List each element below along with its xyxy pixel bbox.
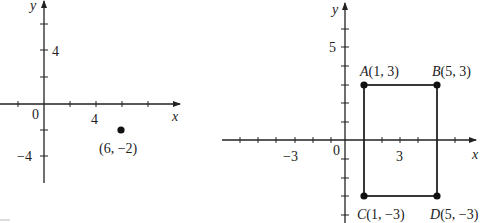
point-C-label: C(1, −3)	[357, 207, 405, 223]
left-x-tick-label-4: 4	[91, 112, 98, 127]
point-D	[433, 192, 440, 199]
right-y-tick-label-5: 5	[329, 40, 336, 55]
right-origin-label: 0	[333, 143, 340, 158]
point-B	[433, 81, 440, 88]
left-y-tick-label-4: 4	[52, 44, 59, 59]
point-B-label: B(5, 3)	[432, 64, 471, 80]
right-graph: y x 0 −3 3 5 A(1, 3) B(5, 3) C(1, −3) D(…	[222, 2, 479, 223]
right-x-axis-label: x	[471, 147, 479, 162]
left-origin-label: 0	[32, 107, 39, 122]
right-x-tick-label-3: 3	[396, 149, 403, 164]
point-D-label: D(5, −3)	[429, 207, 479, 223]
point-A	[360, 81, 367, 88]
left-x-axis-label: x	[171, 109, 179, 124]
left-y-axis-label: y	[28, 0, 37, 13]
right-y-axis-label: y	[330, 2, 339, 17]
figure-canvas: y x 0 4 4 −4 (6, −2)	[0, 0, 482, 223]
left-y-tick-label-neg4: −4	[17, 149, 32, 164]
left-graph: y x 0 4 4 −4 (6, −2)	[0, 0, 180, 220]
point-A-label: A(1, 3)	[359, 64, 399, 80]
left-point-label: (6, −2)	[99, 141, 138, 157]
left-point-6-neg2	[117, 126, 124, 133]
right-x-tick-label-neg3: −3	[283, 149, 298, 164]
point-C	[360, 192, 367, 199]
